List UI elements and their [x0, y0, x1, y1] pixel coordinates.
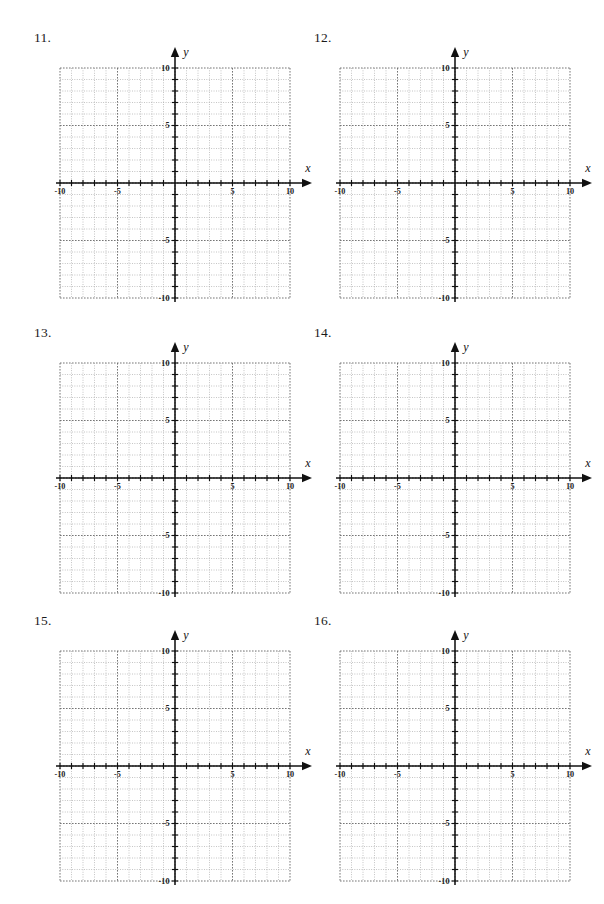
problem-number-label: 11.: [34, 30, 51, 46]
x-tick-label-10: 10: [566, 770, 574, 779]
graph-area: -10-5510105-5-10xy: [52, 355, 282, 585]
problem-12: 12.-10-5510105-5-10xy: [314, 30, 594, 320]
y-tick-label-10: 10: [161, 64, 169, 73]
problem-number-label: 16.: [314, 613, 331, 629]
coordinate-plane-13: -10-5510105-5-10xy: [52, 355, 328, 609]
x-tick-label--10: -10: [55, 187, 66, 196]
y-axis-arrow-icon: [451, 342, 459, 352]
problem-number-label: 13.: [34, 325, 51, 341]
x-axis-label: x: [584, 456, 591, 470]
x-tick-label-5: 5: [230, 770, 234, 779]
y-tick-label-10: 10: [161, 647, 169, 656]
x-tick-label-5: 5: [510, 187, 514, 196]
x-tick-label-5: 5: [230, 482, 234, 491]
x-axis-arrow-icon: [302, 179, 312, 187]
y-tick-label--5: -5: [443, 819, 450, 828]
x-tick-label--5: -5: [114, 187, 121, 196]
x-axis-label: x: [304, 456, 311, 470]
y-tick-label--5: -5: [163, 531, 170, 540]
y-tick-label--5: -5: [443, 236, 450, 245]
y-tick-label-5: 5: [445, 704, 449, 713]
y-tick-label-10: 10: [161, 359, 169, 368]
graph-area: -10-5510105-5-10xy: [332, 643, 562, 873]
coordinate-plane-16: -10-5510105-5-10xy: [332, 643, 604, 897]
y-axis-label: y: [462, 628, 469, 642]
y-tick-label--10: -10: [439, 589, 450, 598]
x-axis-label: x: [584, 744, 591, 758]
y-tick-label-10: 10: [441, 359, 449, 368]
y-tick-label-5: 5: [445, 121, 449, 130]
y-tick-label-5: 5: [445, 416, 449, 425]
y-tick-label-10: 10: [441, 64, 449, 73]
x-tick-label--10: -10: [55, 770, 66, 779]
y-tick-label--5: -5: [163, 819, 170, 828]
x-tick-label--10: -10: [335, 770, 346, 779]
y-axis-arrow-icon: [171, 342, 179, 352]
y-tick-label-10: 10: [441, 647, 449, 656]
y-axis-label: y: [182, 340, 189, 354]
problem-11: 11.-10-5510105-5-10xy: [34, 30, 314, 320]
x-tick-label-10: 10: [566, 187, 574, 196]
y-tick-label--5: -5: [163, 236, 170, 245]
y-axis-label: y: [182, 45, 189, 59]
coordinate-plane-11: -10-5510105-5-10xy: [52, 60, 328, 314]
worksheet-page: 11.-10-5510105-5-10xy12.-10-5510105-5-10…: [0, 0, 604, 904]
x-tick-label-10: 10: [286, 187, 294, 196]
x-tick-label--5: -5: [394, 770, 401, 779]
y-axis-arrow-icon: [171, 630, 179, 640]
y-tick-label--10: -10: [159, 877, 170, 886]
coordinate-plane-14: -10-5510105-5-10xy: [332, 355, 604, 609]
x-axis-arrow-icon: [582, 179, 592, 187]
x-axis-label: x: [584, 161, 591, 175]
x-tick-label-5: 5: [230, 187, 234, 196]
x-tick-label-10: 10: [286, 770, 294, 779]
y-axis-arrow-icon: [171, 47, 179, 57]
problem-number-label: 15.: [34, 613, 51, 629]
x-axis-arrow-icon: [582, 474, 592, 482]
y-tick-label-5: 5: [165, 416, 169, 425]
x-tick-label--10: -10: [55, 482, 66, 491]
y-tick-label--5: -5: [443, 531, 450, 540]
coordinate-plane-12: -10-5510105-5-10xy: [332, 60, 604, 314]
y-tick-label--10: -10: [439, 294, 450, 303]
x-axis-label: x: [304, 161, 311, 175]
y-axis-arrow-icon: [451, 630, 459, 640]
y-axis-label: y: [462, 340, 469, 354]
y-axis-label: y: [462, 45, 469, 59]
x-axis-label: x: [304, 744, 311, 758]
coordinate-plane-15: -10-5510105-5-10xy: [52, 643, 328, 897]
graph-area: -10-5510105-5-10xy: [52, 60, 282, 290]
x-tick-label--10: -10: [335, 187, 346, 196]
x-axis-arrow-icon: [302, 762, 312, 770]
x-tick-label-10: 10: [566, 482, 574, 491]
y-tick-label-5: 5: [165, 704, 169, 713]
x-tick-label--5: -5: [114, 482, 121, 491]
y-tick-label--10: -10: [159, 294, 170, 303]
problem-14: 14.-10-5510105-5-10xy: [314, 325, 594, 615]
y-axis-label: y: [182, 628, 189, 642]
y-axis-arrow-icon: [451, 47, 459, 57]
x-axis-arrow-icon: [582, 762, 592, 770]
y-tick-label--10: -10: [439, 877, 450, 886]
x-tick-label-5: 5: [510, 482, 514, 491]
x-axis-arrow-icon: [302, 474, 312, 482]
graph-area: -10-5510105-5-10xy: [332, 355, 562, 585]
x-tick-label--10: -10: [335, 482, 346, 491]
y-tick-label--10: -10: [159, 589, 170, 598]
x-tick-label--5: -5: [394, 482, 401, 491]
problem-number-label: 14.: [314, 325, 331, 341]
problem-15: 15.-10-5510105-5-10xy: [34, 613, 314, 903]
x-tick-label-5: 5: [510, 770, 514, 779]
problem-number-label: 12.: [314, 30, 331, 46]
problem-16: 16.-10-5510105-5-10xy: [314, 613, 594, 903]
x-tick-label--5: -5: [114, 770, 121, 779]
graph-area: -10-5510105-5-10xy: [332, 60, 562, 290]
x-tick-label--5: -5: [394, 187, 401, 196]
graph-area: -10-5510105-5-10xy: [52, 643, 282, 873]
problem-13: 13.-10-5510105-5-10xy: [34, 325, 314, 615]
x-tick-label-10: 10: [286, 482, 294, 491]
y-tick-label-5: 5: [165, 121, 169, 130]
